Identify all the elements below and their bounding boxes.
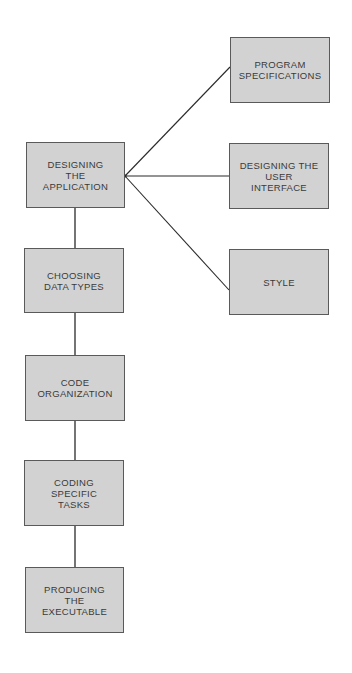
substep-label: DESIGNING THE USER INTERFACE: [236, 160, 323, 193]
substep-style: STYLE: [229, 249, 329, 315]
step-coding-specific-tasks: CODING SPECIFIC TASKS: [24, 460, 124, 526]
substep-label: STYLE: [259, 277, 299, 288]
substep-program-specifications: PROGRAM SPECIFICATIONS: [230, 37, 330, 103]
step-label: PRODUCING THE EXECUTABLE: [38, 584, 111, 617]
connector-design-to-specs: [125, 67, 230, 176]
step-label: CHOOSING DATA TYPES: [40, 270, 108, 292]
step-producing-the-executable: PRODUCING THE EXECUTABLE: [25, 567, 124, 633]
step-designing-the-application: DESIGNING THE APPLICATION: [26, 142, 125, 208]
step-label: DESIGNING THE APPLICATION: [39, 159, 112, 192]
step-code-organization: CODE ORGANIZATION: [25, 355, 125, 421]
step-label: CODING SPECIFIC TASKS: [47, 477, 101, 510]
substep-label: PROGRAM SPECIFICATIONS: [235, 59, 326, 81]
step-choosing-data-types: CHOOSING DATA TYPES: [24, 248, 124, 313]
substep-designing-the-user-interface: DESIGNING THE USER INTERFACE: [229, 143, 329, 209]
flowchart-diagram: DESIGNING THE APPLICATION CHOOSING DATA …: [0, 0, 352, 673]
step-label: CODE ORGANIZATION: [33, 377, 116, 399]
connector-design-to-style: [125, 176, 229, 290]
